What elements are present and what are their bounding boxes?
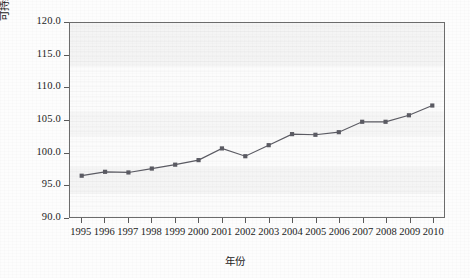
y-tick-label: 100.0 bbox=[36, 146, 61, 157]
data-point-marker bbox=[243, 154, 247, 158]
y-tick-label: 95.0 bbox=[42, 178, 61, 189]
x-axis-title: 年份 bbox=[0, 253, 470, 268]
data-point-marker bbox=[126, 170, 130, 174]
data-series-layer bbox=[70, 23, 444, 218]
data-point-marker bbox=[173, 163, 177, 167]
series-markers bbox=[80, 103, 435, 177]
x-tick-label: 2010 bbox=[413, 226, 453, 237]
data-point-marker bbox=[80, 174, 84, 178]
x-tick bbox=[410, 218, 411, 223]
x-tick bbox=[433, 218, 434, 223]
x-tick bbox=[198, 218, 199, 223]
data-point-marker bbox=[196, 158, 200, 162]
data-point-marker bbox=[267, 143, 271, 147]
x-tick bbox=[151, 218, 152, 223]
data-point-marker bbox=[290, 132, 294, 136]
y-axis-title: 可持续发展能力(1995年全国为100) bbox=[0, 0, 11, 34]
y-tick-label: 115.0 bbox=[37, 48, 61, 59]
data-point-marker bbox=[150, 166, 154, 170]
y-tick bbox=[64, 120, 69, 121]
data-point-marker bbox=[337, 130, 341, 134]
data-point-marker bbox=[407, 113, 411, 117]
data-point-marker bbox=[360, 120, 364, 124]
x-tick bbox=[269, 218, 270, 223]
series-line bbox=[82, 106, 433, 176]
y-tick bbox=[64, 218, 69, 219]
x-tick bbox=[339, 218, 340, 223]
x-tick bbox=[386, 218, 387, 223]
x-tick bbox=[81, 218, 82, 223]
x-tick bbox=[245, 218, 246, 223]
data-point-marker bbox=[313, 133, 317, 137]
x-tick bbox=[222, 218, 223, 223]
y-tick bbox=[64, 153, 69, 154]
data-point-marker bbox=[220, 146, 224, 150]
x-tick bbox=[316, 218, 317, 223]
data-point-marker bbox=[430, 103, 434, 107]
x-tick bbox=[128, 218, 129, 223]
x-tick bbox=[175, 218, 176, 223]
y-tick-label: 110.0 bbox=[37, 80, 61, 91]
chart-figure: 可持续发展能力(1995年全国为100) 90.095.0100.0105.01… bbox=[0, 0, 470, 278]
x-tick bbox=[104, 218, 105, 223]
y-tick-label: 105.0 bbox=[36, 113, 61, 124]
y-tick bbox=[64, 55, 69, 56]
y-tick-label: 120.0 bbox=[36, 15, 61, 26]
plot-area bbox=[69, 22, 445, 218]
x-tick bbox=[292, 218, 293, 223]
y-tick-label: 90.0 bbox=[42, 211, 61, 222]
x-tick bbox=[363, 218, 364, 223]
data-point-marker bbox=[103, 170, 107, 174]
y-tick bbox=[64, 22, 69, 23]
data-point-marker bbox=[383, 120, 387, 124]
y-tick bbox=[64, 87, 69, 88]
y-tick bbox=[64, 185, 69, 186]
